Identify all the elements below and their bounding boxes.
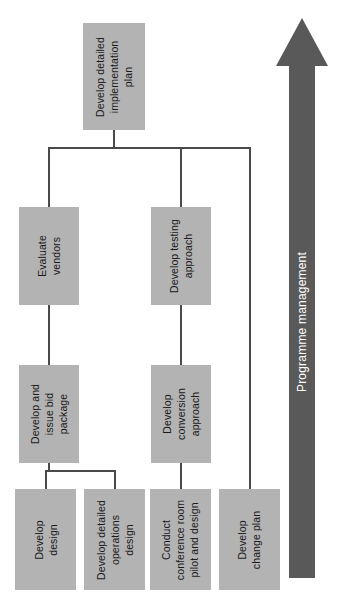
connector-to-develop-detailed-operations-design bbox=[114, 470, 116, 489]
connector-conversion-to-conference-room-pilot bbox=[180, 462, 182, 490]
node-evaluate-vendors[interactable]: Evaluate vendors bbox=[19, 207, 79, 305]
node-label: Develop detailed operations design bbox=[94, 500, 136, 580]
node-label: Develop testing approach bbox=[167, 219, 195, 293]
node-label: Evaluate vendors bbox=[35, 235, 63, 277]
connector-to-develop-design bbox=[45, 470, 47, 489]
diagram-canvas: Develop detailed implementation plan Eva… bbox=[0, 0, 340, 599]
connector-bid-package-bus bbox=[45, 470, 115, 472]
arrow-shaft bbox=[289, 65, 315, 578]
node-develop-design[interactable]: Develop design bbox=[15, 489, 76, 590]
connector-evaluate-vendors-to-bid-package bbox=[48, 305, 50, 366]
connector-root-stem bbox=[113, 130, 115, 148]
node-label: Conduct conference room pilot and design bbox=[160, 499, 202, 579]
node-develop-and-issue-bid-package[interactable]: Develop and issue bid package bbox=[19, 365, 79, 463]
node-develop-conversion-approach[interactable]: Develop conversion approach bbox=[151, 365, 211, 463]
programme-management-arrow: Programme management bbox=[276, 18, 328, 578]
arrow-up-icon bbox=[276, 18, 328, 66]
node-label: Develop design bbox=[31, 520, 59, 559]
node-conduct-conference-room-pilot-and-design[interactable]: Conduct conference room pilot and design bbox=[150, 489, 211, 590]
connector-testing-to-conversion bbox=[180, 305, 182, 366]
node-develop-detailed-operations-design[interactable]: Develop detailed operations design bbox=[84, 489, 145, 590]
node-label: Develop detailed implementation plan bbox=[93, 37, 135, 117]
node-label: Develop change plan bbox=[235, 510, 263, 568]
node-develop-detailed-implementation-plan[interactable]: Develop detailed implementation plan bbox=[83, 23, 145, 130]
node-develop-testing-approach[interactable]: Develop testing approach bbox=[151, 207, 211, 305]
node-label: Develop conversion approach bbox=[160, 388, 202, 440]
connector-to-evaluate-vendors bbox=[48, 147, 50, 208]
connector-root-bus bbox=[48, 147, 251, 149]
connector-to-develop-change-plan-vertical bbox=[249, 147, 251, 521]
connector-to-develop-testing-approach bbox=[180, 147, 182, 208]
node-develop-change-plan[interactable]: Develop change plan bbox=[219, 489, 280, 590]
node-label: Develop and issue bid package bbox=[28, 384, 70, 444]
